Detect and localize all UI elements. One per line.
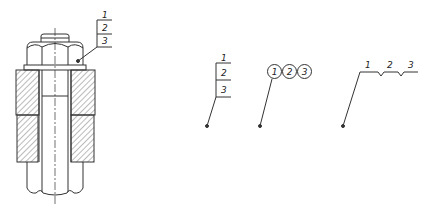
zigzag-label-1: 1 — [365, 61, 371, 70]
bolt-assembly — [16, 28, 95, 205]
zigzag-label-2: 2 — [387, 61, 393, 70]
left-plate-upper — [16, 70, 39, 115]
right-plate-lower — [71, 115, 94, 162]
stacked-label-1: 1 — [221, 54, 227, 63]
stacked-label-3: 3 — [221, 86, 227, 95]
assembly-label-3: 3 — [102, 37, 108, 46]
circled-label-3: 3 — [297, 64, 312, 79]
drawing-canvas: 1 2 3 1 2 3 1 2 3 1 2 3 — [0, 0, 427, 216]
assembly-label-1: 1 — [102, 11, 108, 20]
right-plate-upper — [71, 70, 95, 115]
circled-label-1: 1 — [267, 64, 282, 79]
zigzag-label-3: 3 — [408, 61, 414, 70]
zigzag-callout — [342, 72, 419, 128]
drawing-svg — [0, 0, 427, 216]
stacked-callout — [206, 63, 232, 128]
circled-label-2: 2 — [282, 64, 297, 79]
stacked-label-2: 2 — [221, 69, 227, 78]
left-plate-lower — [17, 115, 38, 162]
assembly-label-2: 2 — [102, 24, 108, 33]
circled-callout — [259, 79, 273, 128]
